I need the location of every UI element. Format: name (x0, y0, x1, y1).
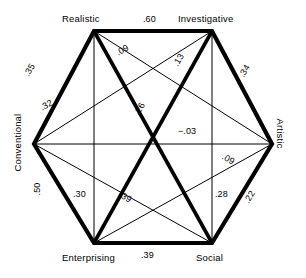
vertex-label-conventional: Conventional (12, 114, 23, 172)
vertex-label-social: Social (196, 252, 223, 263)
vertex-label-artistic: Artistic (275, 117, 286, 151)
value-investigative-social: .28 (215, 189, 228, 199)
hexagon-diagram: Realistic Investigative Artistic Social … (0, 0, 306, 278)
vertex-label-investigative: Investigative (178, 13, 233, 24)
value-conventional-artistic: −.03 (178, 126, 196, 136)
value-enterprising-conventional: .50 (32, 183, 42, 196)
vertex-label-realistic: Realistic (62, 13, 100, 24)
value-social-enterprising: .39 (141, 250, 154, 260)
vertex-label-enterprising: Enterprising (62, 252, 115, 263)
value-realistic-enterprising: .30 (73, 189, 86, 199)
hexagon-graph-svg (0, 0, 306, 278)
value-realistic-investigative: .60 (143, 14, 156, 24)
thick-diagonals (94, 31, 212, 243)
